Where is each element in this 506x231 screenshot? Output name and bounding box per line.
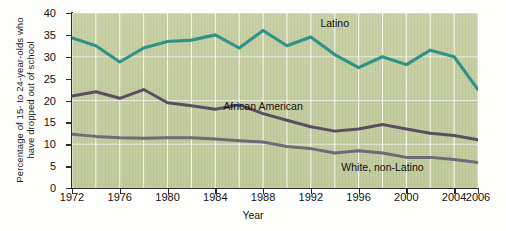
y-tick-label: 40 xyxy=(34,8,56,18)
x-axis-tick-labels: 1972197619801984198819921996200020042006 xyxy=(0,191,506,209)
series-line-white-non-latino xyxy=(72,134,478,162)
y-tick-label: 10 xyxy=(34,139,56,149)
x-tick-mark xyxy=(311,189,312,194)
series-line-latino xyxy=(72,31,478,90)
x-tick-mark xyxy=(406,189,407,194)
line-chart: Percentage of 15- to 24-year-olds who ha… xyxy=(0,0,506,231)
y-axis-tick-labels: 0510152025303540 xyxy=(30,0,56,200)
series-label-latino: Latino xyxy=(320,17,349,29)
x-tick-mark xyxy=(215,189,216,194)
series-label-white-non-latino: White, non-Latino xyxy=(341,161,423,173)
x-tick-mark xyxy=(263,189,264,194)
y-tick-label: 30 xyxy=(34,52,56,62)
x-tick-mark xyxy=(454,189,455,194)
x-tick-mark xyxy=(72,189,73,194)
y-tick-label: 35 xyxy=(34,30,56,40)
x-tick-mark xyxy=(478,189,479,194)
series-label-african-american: African American xyxy=(223,100,302,112)
x-tick-mark xyxy=(120,189,121,194)
y-tick-label: 20 xyxy=(34,96,56,106)
y-tick-label: 25 xyxy=(34,74,56,84)
x-axis-title: Year xyxy=(0,209,506,221)
series-line-african-american xyxy=(72,90,478,140)
x-tick-mark xyxy=(168,189,169,194)
y-tick-label: 15 xyxy=(34,117,56,127)
y-tick-label: 5 xyxy=(34,161,56,171)
x-tick-mark xyxy=(359,189,360,194)
